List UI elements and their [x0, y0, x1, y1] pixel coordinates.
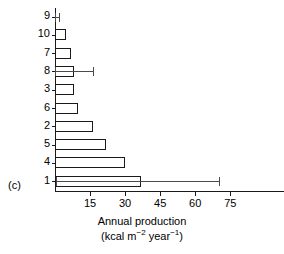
error-bar-cap-high	[219, 177, 220, 186]
category-label: 9	[44, 9, 50, 22]
bar-row: 5	[55, 136, 284, 154]
bar-row: 1	[55, 173, 284, 191]
x-axis-tick	[160, 191, 161, 196]
error-bar-cap-low	[56, 177, 57, 186]
category-label: 8	[44, 64, 50, 77]
error-bar-cap-low	[55, 13, 56, 22]
annual-production-bar-chart: (c) 91078362541 Annual production (kcal …	[0, 0, 284, 254]
plot-area: 91078362541	[55, 8, 284, 191]
bar	[55, 103, 78, 114]
x-axis-tick-label: 75	[224, 197, 236, 210]
x-axis-tick	[125, 191, 126, 196]
bar-row: 7	[55, 45, 284, 63]
bar-row: 2	[55, 118, 284, 136]
x-axis-tick-label: 15	[84, 197, 96, 210]
x-axis-tick-label: 60	[189, 197, 201, 210]
error-bar-cap-high	[93, 67, 94, 76]
panel-label: (c)	[8, 180, 21, 191]
x-axis-unit-suffix: )	[179, 230, 183, 242]
category-label: 4	[44, 155, 50, 168]
category-label: 5	[44, 137, 50, 150]
x-axis-tick-label: 30	[119, 197, 131, 210]
bar-row: 10	[55, 26, 284, 44]
category-label: 3	[44, 82, 50, 95]
bar-row: 4	[55, 154, 284, 172]
bar	[55, 29, 66, 40]
x-axis-unit-exp2: −1	[170, 228, 179, 237]
x-axis-title: Annual production (kcal m−2 year−1)	[0, 214, 284, 244]
category-label: 7	[44, 46, 50, 59]
bar	[55, 157, 125, 168]
x-axis-unit-mid: year	[146, 230, 170, 242]
bar-row: 3	[55, 81, 284, 99]
bar	[55, 121, 93, 132]
error-bar-line	[55, 71, 93, 72]
bar	[55, 48, 71, 59]
bar-row: 6	[55, 100, 284, 118]
category-label: 2	[44, 119, 50, 132]
x-axis-unit-exp1: −2	[137, 228, 146, 237]
x-axis-title-line2: (kcal m−2 year−1)	[0, 229, 284, 244]
x-axis-tick-label: 45	[154, 197, 166, 210]
x-axis-unit-prefix: (kcal m	[101, 230, 136, 242]
error-bar-cap-high	[59, 13, 60, 22]
x-axis-title-line1: Annual production	[0, 214, 284, 229]
error-bar-line	[56, 181, 218, 182]
category-label: 1	[44, 174, 50, 187]
x-axis-tick	[230, 191, 231, 196]
error-bar-cap-low	[55, 67, 56, 76]
x-axis-tick	[195, 191, 196, 196]
category-label: 6	[44, 101, 50, 114]
x-axis-tick	[90, 191, 91, 196]
category-label: 10	[38, 27, 50, 40]
bar-row: 8	[55, 63, 284, 81]
bar	[55, 84, 74, 95]
bar-row: 9	[55, 8, 284, 26]
bar	[55, 139, 106, 150]
